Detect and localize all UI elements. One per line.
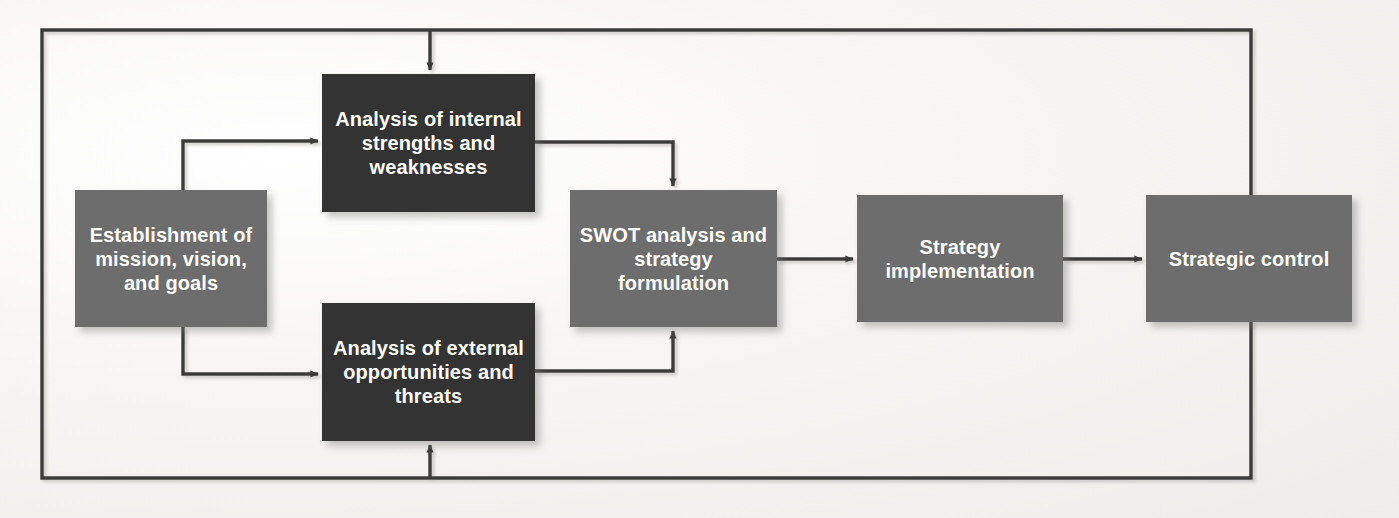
node-strategy-implementation: Strategy implementation bbox=[857, 195, 1063, 322]
connector-establishment-to-internal bbox=[183, 141, 318, 190]
node-establishment: Establishment of mission, vision, and go… bbox=[75, 190, 267, 327]
node-establishment-label: Establishment of mission, vision, and go… bbox=[81, 223, 261, 295]
node-swot-label: SWOT analysis and strategy formulation bbox=[576, 223, 771, 295]
node-strategy-implementation-label: Strategy implementation bbox=[863, 235, 1057, 283]
node-internal-analysis-label: Analysis of internal strengths and weakn… bbox=[328, 107, 529, 179]
strategic-management-diagram: Establishment of mission, vision, and go… bbox=[0, 0, 1399, 518]
node-strategic-control: Strategic control bbox=[1146, 195, 1352, 322]
connector-internal-to-swot bbox=[535, 142, 673, 186]
node-swot: SWOT analysis and strategy formulation bbox=[570, 190, 777, 327]
node-strategic-control-label: Strategic control bbox=[1169, 247, 1330, 271]
connector-establishment-to-external bbox=[183, 327, 318, 374]
node-external-analysis-label: Analysis of external opportunities and t… bbox=[328, 336, 529, 408]
node-internal-analysis: Analysis of internal strengths and weakn… bbox=[322, 74, 535, 212]
node-external-analysis: Analysis of external opportunities and t… bbox=[322, 303, 535, 441]
connector-external-to-swot bbox=[535, 331, 673, 371]
